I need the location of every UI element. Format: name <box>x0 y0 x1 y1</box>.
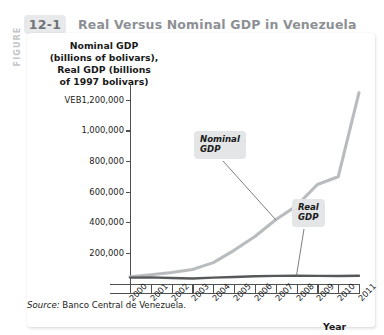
source-note: Source: Banco Central de Venezuela. <box>27 300 186 310</box>
plot-area: VEB1,200,0001,000,000800,000600,000400,0… <box>27 33 375 327</box>
callout-nominal-gdp: Nominal GDP <box>194 131 246 159</box>
callout-nominal-line-1: Nominal <box>200 134 240 144</box>
figure-number: 12-1 <box>24 17 66 32</box>
figure-header: FIGURE 12-1 Real Versus Nominal GDP in V… <box>0 6 384 32</box>
series-lines <box>27 33 375 327</box>
figure-card: FIGURE 12-1 Real Versus Nominal GDP in V… <box>0 0 384 335</box>
source-text: Banco Central de Venezuela. <box>62 300 186 310</box>
callout-nominal-line-2: GDP <box>200 144 240 154</box>
callout-real-line-2: GDP <box>298 212 319 222</box>
leader-line-real <box>297 229 305 276</box>
callout-real-line-1: Real <box>298 202 319 212</box>
chart-plate: Nominal GDP (billions of bolivars), Real… <box>27 33 375 327</box>
page-title: Real Versus Nominal GDP in Venezuela <box>78 17 357 32</box>
x-axis-title: Year <box>323 321 346 332</box>
figure-word-label: FIGURE <box>13 21 22 73</box>
callout-real-gdp: Real GDP <box>292 199 325 227</box>
source-label: Source: <box>27 300 60 310</box>
leader-line-nominal <box>223 161 276 220</box>
line-real-gdp <box>130 276 359 279</box>
